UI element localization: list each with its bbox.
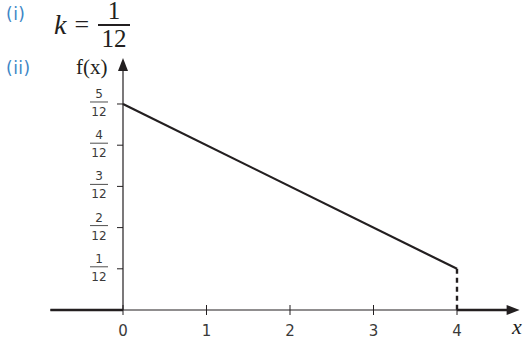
y-tick-label-denominator: 12 [91, 146, 106, 160]
x-tick-label: 3 [369, 322, 379, 340]
series [50, 104, 509, 310]
chart: 01234 112212312412512 [0, 0, 525, 347]
x-tick-label: 4 [452, 322, 462, 340]
y-tick-label-numerator: 2 [95, 211, 103, 225]
y-ticks: 112212312412512 [90, 87, 123, 284]
y-tick-label-denominator: 12 [91, 105, 106, 119]
y-tick-label-numerator: 5 [95, 87, 103, 101]
series-segment [123, 104, 457, 269]
x-tick-label: 1 [202, 322, 212, 340]
x-tick-label: 0 [118, 322, 128, 340]
y-tick-label-denominator: 12 [91, 229, 106, 243]
y-tick-label-denominator: 12 [91, 270, 106, 284]
x-tick-label: 2 [285, 322, 295, 340]
y-tick-label-denominator: 12 [91, 187, 106, 201]
y-tick-label-numerator: 1 [95, 252, 103, 266]
y-axis-arrow [118, 58, 128, 71]
y-tick-label-numerator: 4 [95, 128, 103, 142]
y-tick-label-numerator: 3 [95, 169, 103, 183]
